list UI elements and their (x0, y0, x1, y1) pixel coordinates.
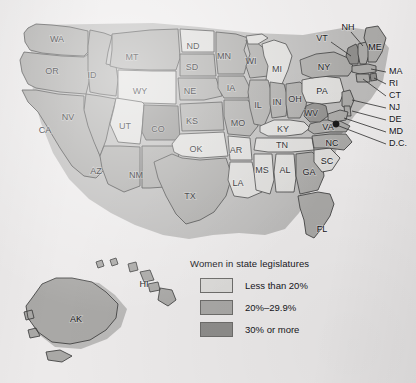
map-legend: Women in state legislatures Less than 20… (190, 258, 390, 344)
state-label-TN: TN (276, 140, 288, 150)
state-label-CO: CO (151, 124, 165, 134)
state-CO[interactable] (142, 105, 180, 140)
state-label-HI: HI (140, 279, 149, 289)
state-label-IN: IN (273, 97, 282, 107)
legend-item-high[interactable]: 30% or more (200, 322, 390, 337)
state-label-MS: MS (255, 165, 269, 175)
state-label-NJ: NJ (389, 102, 400, 112)
state-label-CT: CT (389, 90, 401, 100)
legend-label-mid: 20%–29.9% (245, 302, 296, 313)
state-label-LA: LA (232, 178, 243, 188)
state-label-OR: OR (45, 66, 59, 76)
legend-label-low: Less than 20% (245, 280, 308, 291)
map-figure: WA OR CA NV ID MT WY UT AZ CO NM ND SD N… (0, 0, 416, 383)
state-label-IA: IA (227, 83, 236, 93)
state-label-AZ: AZ (90, 166, 102, 176)
state-label-DE: DE (389, 114, 402, 124)
legend-swatch-low (200, 278, 233, 293)
state-label-UT: UT (119, 121, 131, 131)
state-RI[interactable] (370, 73, 377, 81)
state-label-MO: MO (231, 118, 246, 128)
state-label-MI: MI (272, 64, 282, 74)
state-label-ME: ME (368, 42, 382, 52)
legend-item-low[interactable]: Less than 20% (200, 278, 390, 293)
state-label-PA: PA (316, 86, 327, 96)
state-label-TX: TX (184, 191, 196, 201)
state-label-DC: D.C. (389, 138, 407, 148)
legend-swatch-mid (200, 300, 233, 315)
state-label-VT: VT (316, 33, 328, 43)
legend-title: Women in state legislatures (190, 258, 390, 269)
state-label-NC: NC (326, 138, 339, 148)
state-label-AL: AL (279, 165, 290, 175)
state-label-RI: RI (389, 78, 398, 88)
state-label-WA: WA (50, 34, 64, 44)
leader-line-de (352, 111, 386, 120)
state-label-KY: KY (277, 124, 289, 134)
region-alaska-hawaii (24, 258, 176, 362)
state-label-AR: AR (230, 145, 243, 155)
state-label-NY: NY (318, 62, 331, 72)
state-label-SD: SD (186, 62, 199, 72)
legend-swatch-high (200, 322, 233, 337)
state-label-AK: AK (70, 314, 82, 324)
legend-label-high: 30% or more (245, 324, 299, 335)
state-label-OH: OH (288, 94, 302, 104)
state-label-MN: MN (217, 51, 231, 61)
state-label-WY: WY (133, 86, 148, 96)
state-label-IL: IL (254, 100, 262, 110)
state-label-NE: NE (184, 86, 197, 96)
state-label-MD: MD (389, 126, 403, 136)
state-CT[interactable] (356, 74, 370, 82)
state-label-MA: MA (389, 66, 403, 76)
state-label-NH: NH (342, 22, 355, 32)
state-label-CA: CA (39, 125, 52, 135)
state-label-MT: MT (126, 52, 139, 62)
state-label-VA: VA (322, 122, 333, 132)
dc-marker-dot[interactable] (333, 121, 339, 127)
state-label-SC: SC (321, 156, 334, 166)
state-label-OK: OK (189, 144, 202, 154)
state-label-KS: KS (186, 116, 198, 126)
state-label-ID: ID (88, 70, 98, 80)
state-MT[interactable] (110, 29, 180, 70)
state-label-NM: NM (129, 170, 143, 180)
state-label-WI: WI (246, 56, 257, 66)
state-label-GA: GA (302, 167, 315, 177)
state-label-WV: WV (304, 108, 318, 118)
state-label-FL: FL (317, 224, 328, 234)
legend-item-mid[interactable]: 20%–29.9% (200, 300, 390, 315)
state-label-ND: ND (187, 41, 200, 51)
state-label-NV: NV (62, 112, 75, 122)
